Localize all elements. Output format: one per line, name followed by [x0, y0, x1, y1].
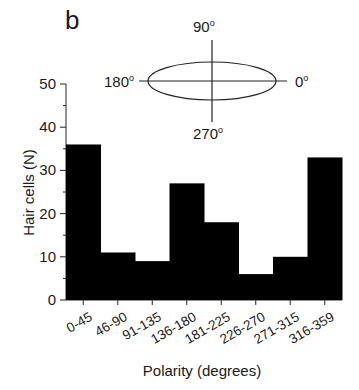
bar-271-315 [273, 257, 308, 300]
y-tick-label: 50 [26, 75, 56, 92]
label-0-deg: 0o [295, 73, 308, 90]
y-axis-label: Hair cells (N) [20, 143, 37, 243]
y-tick-label: 0 [26, 291, 56, 308]
bar-46-90 [101, 252, 136, 300]
label-180-deg: 180o [104, 73, 134, 90]
bar-136-180 [170, 183, 205, 300]
bar-0-45 [66, 144, 101, 300]
orientation-diagram [139, 40, 287, 122]
y-tick-label: 40 [26, 118, 56, 135]
label-90-deg: 90o [193, 18, 215, 35]
bar-316-359 [308, 157, 343, 300]
bar-91-135 [135, 261, 170, 300]
x-axis-label: Polarity (degrees) [0, 362, 359, 379]
bar-226-270 [239, 274, 274, 300]
bar-181-225 [204, 222, 239, 300]
y-tick-label: 10 [26, 248, 56, 265]
bars [66, 144, 343, 300]
label-270-deg: 270o [193, 125, 223, 142]
